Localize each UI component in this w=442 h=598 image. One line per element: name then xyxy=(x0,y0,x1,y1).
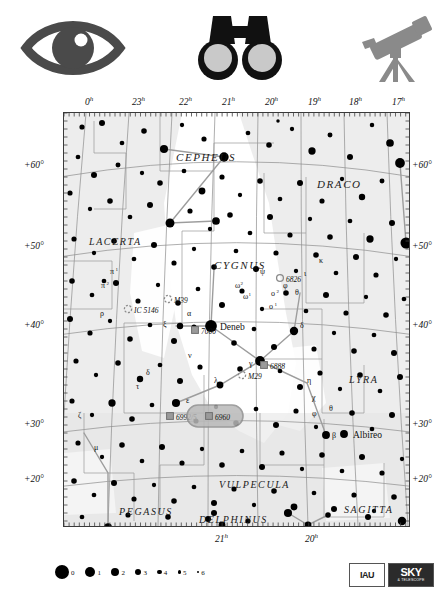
star xyxy=(111,480,117,486)
dso-label-IC5146: IC 5146 xyxy=(133,306,159,315)
star xyxy=(119,442,125,448)
dec-label-right-2: +40° xyxy=(412,320,432,330)
dec-label-right-3: +30° xyxy=(412,419,432,429)
dso-marker-69925[interactable] xyxy=(167,413,174,420)
star xyxy=(172,399,180,407)
star xyxy=(338,387,342,391)
greek-label: ω xyxy=(235,281,240,290)
star xyxy=(379,470,384,475)
greek-label: ι xyxy=(304,269,307,278)
star xyxy=(271,344,277,350)
dso-marker-6960[interactable] xyxy=(206,413,213,420)
greek-label: ο xyxy=(271,289,275,298)
star xyxy=(212,217,220,225)
star xyxy=(219,462,225,468)
star xyxy=(177,378,183,384)
star xyxy=(135,298,140,303)
star xyxy=(252,503,256,507)
star xyxy=(67,190,72,195)
star xyxy=(370,123,375,128)
dec-label-left-3: +30° xyxy=(24,419,44,429)
star-chart-cygnus[interactable]: DenebAlbireoπ1π2ρξαω2ω1ο2ο1ψκιφθδνδτγλεη… xyxy=(63,112,410,527)
star xyxy=(278,197,283,202)
star xyxy=(171,498,177,504)
star xyxy=(71,478,77,484)
star xyxy=(322,431,330,439)
star xyxy=(312,491,317,496)
binoculars-icon xyxy=(185,10,295,86)
star xyxy=(291,504,298,511)
greek-label: ω xyxy=(243,292,248,301)
star xyxy=(389,220,395,226)
star xyxy=(88,207,92,211)
iau-logo: IAU xyxy=(349,563,385,587)
star xyxy=(347,154,353,160)
greek-label: ο xyxy=(269,302,273,311)
magnitude-value: 5 xyxy=(183,569,187,577)
star xyxy=(308,217,312,221)
dec-label-right-1: +50° xyxy=(412,241,432,251)
star xyxy=(332,331,336,335)
dso-label-M29: M29 xyxy=(247,372,262,381)
star xyxy=(343,310,348,315)
star xyxy=(323,292,329,298)
star xyxy=(129,416,135,422)
star xyxy=(290,127,294,131)
star xyxy=(359,194,365,200)
star xyxy=(372,333,377,338)
star xyxy=(276,119,279,122)
star xyxy=(378,389,383,394)
star xyxy=(359,454,365,460)
star xyxy=(234,249,239,254)
star xyxy=(348,219,353,224)
magnitude-value: 6 xyxy=(201,569,205,577)
star xyxy=(115,360,121,366)
iau-logo-text: IAU xyxy=(360,570,374,580)
magnitude-value: 3 xyxy=(143,569,147,577)
star xyxy=(219,302,225,308)
star xyxy=(259,464,265,470)
star xyxy=(287,232,292,237)
dso-marker-6888[interactable] xyxy=(261,362,268,369)
star xyxy=(308,147,315,154)
dec-label-left-2: +40° xyxy=(24,320,44,330)
star-label-deneb: Deneb xyxy=(220,322,245,332)
star xyxy=(397,374,403,380)
dec-label-right-0: +60° xyxy=(412,160,432,170)
constellation-name-cygnus: CYGNUS xyxy=(214,259,266,271)
constellation-name-draco: DRACO xyxy=(316,178,362,190)
star xyxy=(238,193,242,197)
star xyxy=(157,180,163,186)
dso-marker-7000[interactable] xyxy=(192,327,199,334)
star xyxy=(182,169,187,174)
sky-logo-subtitle: & TELESCOPE xyxy=(397,578,424,583)
star xyxy=(351,492,356,497)
named-star-albireo xyxy=(340,430,348,438)
star xyxy=(75,440,80,445)
star xyxy=(69,278,75,284)
star xyxy=(331,506,337,512)
star xyxy=(151,242,157,248)
magnitude-dot xyxy=(197,571,199,573)
star xyxy=(87,330,92,335)
star xyxy=(252,327,257,332)
dso-marker-IC5146[interactable] xyxy=(124,305,131,312)
magnitude-value: 0 xyxy=(71,569,75,577)
star xyxy=(76,155,81,160)
star xyxy=(297,180,303,186)
star xyxy=(192,247,196,251)
star xyxy=(248,231,253,236)
star xyxy=(141,128,147,134)
ra-label-top-6: 18h xyxy=(349,95,362,107)
star xyxy=(201,136,206,141)
star xyxy=(231,340,237,346)
star xyxy=(349,410,355,416)
star xyxy=(319,452,325,458)
greek-label: β xyxy=(332,431,336,440)
star xyxy=(116,163,121,168)
star xyxy=(171,260,176,265)
star xyxy=(140,459,145,464)
star xyxy=(219,174,224,179)
magnitude-value: 4 xyxy=(164,569,168,577)
star xyxy=(284,509,292,517)
